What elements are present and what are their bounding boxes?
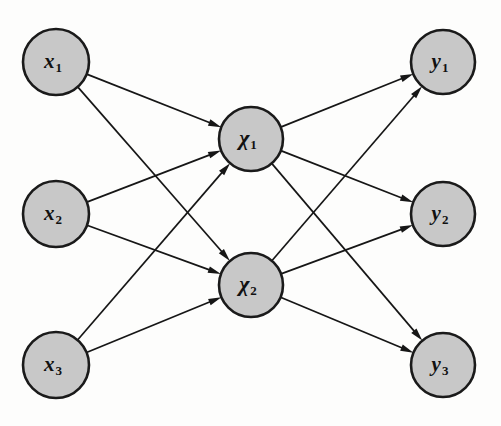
- edge-x2-to-chi1: [87, 150, 221, 202]
- arrow-head: [400, 225, 413, 233]
- node-x1[interactable]: x1: [23, 29, 89, 95]
- edge-x1-to-chi2: [78, 87, 230, 261]
- edge-chi2-to-y1: [272, 86, 422, 261]
- node-label-subscript: 2: [250, 283, 257, 298]
- edge-line: [87, 74, 211, 123]
- node-chi1[interactable]: χ1: [219, 107, 283, 171]
- edge-chi2-to-y2: [281, 225, 413, 274]
- arrow-head: [208, 150, 221, 158]
- node-y2[interactable]: y2: [411, 182, 475, 246]
- arrow-head: [400, 74, 413, 82]
- arrow-head: [208, 119, 221, 127]
- edge-line: [87, 225, 210, 270]
- edge-line: [281, 297, 403, 348]
- node-label-subscript: 2: [442, 212, 449, 227]
- arrow-head: [208, 266, 221, 274]
- node-label-subscript: 1: [250, 137, 257, 152]
- node-label-base: χ: [236, 125, 250, 150]
- network-svg: x1x2x3χ1χ2y1y2y3: [0, 0, 501, 426]
- edge-line: [78, 87, 223, 252]
- node-label-base: χ: [236, 271, 250, 296]
- node-label-subscript: 3: [442, 363, 449, 378]
- edge-chi1-to-y3: [272, 163, 423, 340]
- node-label-subscript: 1: [56, 60, 63, 75]
- nodes-group: x1x2x3χ1χ2y1y2y3: [23, 29, 475, 398]
- edge-x2-to-chi2: [87, 225, 221, 274]
- node-label-base: x: [43, 49, 55, 73]
- node-label-subscript: 3: [56, 363, 63, 378]
- node-label-subscript: 2: [56, 212, 63, 227]
- edge-line: [272, 95, 415, 261]
- network-diagram: x1x2x3χ1χ2y1y2y3: [0, 0, 501, 426]
- arrow-head: [208, 297, 221, 305]
- edge-line: [87, 155, 211, 203]
- node-y3[interactable]: y3: [411, 333, 475, 397]
- edge-line: [272, 163, 415, 331]
- node-label-subscript: 1: [442, 60, 449, 75]
- arrow-head: [400, 194, 413, 202]
- node-label-base: x: [43, 352, 55, 376]
- node-chi2[interactable]: χ2: [219, 253, 283, 317]
- arrow-head: [400, 345, 413, 353]
- edge-line: [281, 151, 403, 199]
- node-y1[interactable]: y1: [411, 30, 475, 94]
- edge-line: [281, 78, 403, 127]
- node-x3[interactable]: x3: [23, 332, 89, 398]
- edge-x3-to-chi1: [78, 163, 231, 340]
- edge-chi1-to-y2: [281, 151, 413, 203]
- edge-line: [281, 229, 402, 274]
- node-x2[interactable]: x2: [23, 181, 89, 247]
- node-label-base: x: [43, 201, 55, 225]
